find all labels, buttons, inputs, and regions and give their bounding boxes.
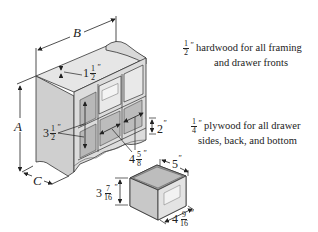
label-dimension-a: A bbox=[14, 120, 22, 133]
note-hardwood: 12" hardwood for all framing and drawer … bbox=[182, 40, 302, 69]
label-drawer-width: 5" bbox=[172, 155, 181, 171]
note-plywood: 14" plywood for all drawer sides, back, … bbox=[190, 118, 301, 147]
cubby-shelf-illustration bbox=[0, 0, 318, 232]
label-cubby-width: 458" bbox=[129, 150, 146, 168]
label-top-lip: 112" bbox=[83, 64, 100, 82]
label-drawer-height: 3716" bbox=[96, 184, 117, 202]
label-dimension-b: B bbox=[73, 26, 81, 39]
label-dimension-c: C bbox=[33, 174, 42, 187]
dimension-base-height bbox=[149, 118, 156, 134]
label-base-height: 2" bbox=[157, 120, 166, 136]
diagram-canvas: B A C 112" 312" 458" 2" 5" 3716" 4916" 1… bbox=[0, 0, 318, 232]
label-cubby-height: 312" bbox=[43, 124, 60, 142]
label-drawer-depth: 4916" bbox=[172, 210, 193, 228]
